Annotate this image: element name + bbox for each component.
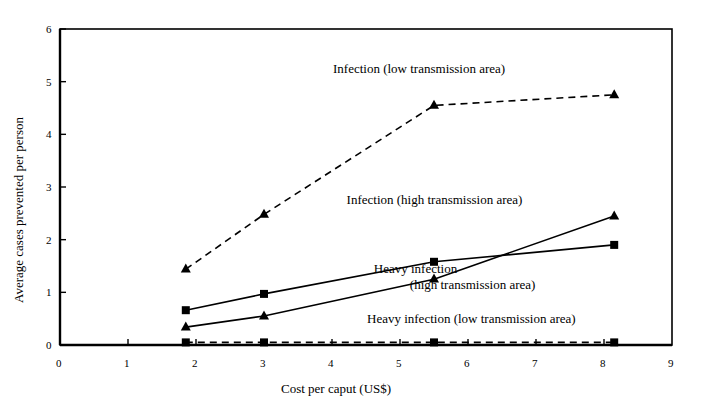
series-marker-square — [260, 338, 268, 346]
x-tick-label: 5 — [396, 358, 402, 369]
x-tick-label: 4 — [328, 358, 334, 369]
x-tick-label: 8 — [600, 358, 606, 369]
series-marker-triangle — [609, 89, 619, 98]
series-annotation-3: Heavy infection (low transmission area) — [367, 311, 576, 327]
series-marker-square — [182, 306, 190, 314]
series-marker-square — [430, 338, 438, 346]
chart-figure: Average cases prevented per person Cost … — [0, 0, 701, 414]
annotation-line-1: Infection (low transmission area) — [333, 61, 505, 76]
x-axis-label: Cost per caput (US$) — [281, 381, 391, 397]
annotation-line-1: Heavy infection (low transmission area) — [367, 311, 576, 326]
y-tick-label: 4 — [46, 129, 52, 140]
annotation-line-1: Heavy infection — [374, 261, 457, 276]
series-line-0 — [186, 95, 614, 269]
series-annotation-1: Infection (high transmission area) — [347, 192, 523, 208]
x-tick-label: 9 — [668, 358, 674, 369]
series-annotation-2: Heavy infection(high transmission area) — [374, 261, 536, 293]
series-marker-triangle — [429, 100, 439, 109]
annotation-line-2: (high transmission area) — [410, 277, 536, 293]
y-tick-label: 6 — [46, 24, 52, 35]
y-tick-label: 0 — [46, 340, 52, 351]
y-axis-label-text: Average cases prevented per person — [11, 117, 27, 303]
series-marker-square — [260, 290, 268, 298]
x-tick-label: 1 — [124, 358, 130, 369]
x-tick-label: 6 — [464, 358, 470, 369]
series-annotation-0: Infection (low transmission area) — [333, 61, 505, 77]
series-marker-triangle — [259, 209, 269, 218]
series-marker-square — [610, 241, 618, 249]
x-tick-label: 0 — [56, 358, 62, 369]
x-tick-label: 7 — [532, 358, 538, 369]
annotation-line-1: Infection (high transmission area) — [347, 192, 523, 207]
y-tick-label: 1 — [46, 287, 52, 298]
y-tick-label: 5 — [46, 77, 52, 88]
y-tick-label: 2 — [46, 235, 52, 246]
series-marker-square — [182, 338, 190, 346]
series-marker-triangle — [181, 264, 191, 273]
y-tick-label: 3 — [46, 182, 52, 193]
series-marker-square — [610, 338, 618, 346]
x-tick-label: 3 — [260, 358, 266, 369]
y-axis-label: Average cases prevented per person — [10, 100, 28, 320]
x-tick-label: 2 — [192, 358, 198, 369]
series-marker-triangle — [609, 210, 619, 219]
